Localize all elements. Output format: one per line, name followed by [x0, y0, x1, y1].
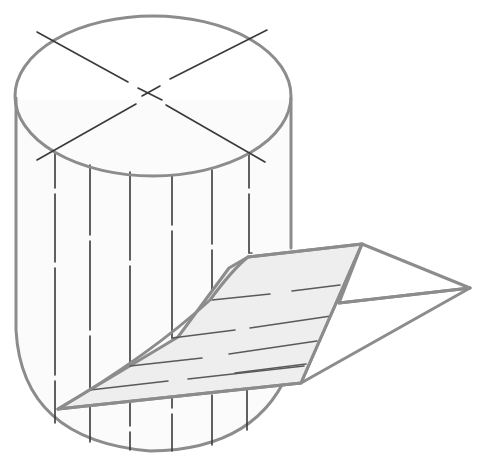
diagram-canvas: Cylinder cut by an inclined plane [0, 0, 490, 463]
cylinder-diagram [0, 0, 490, 463]
